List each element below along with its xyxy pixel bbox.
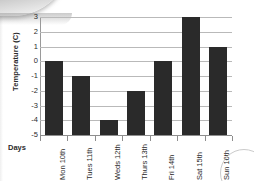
y-tick-label: -3 [22,102,38,110]
y-tick-label: 1 [22,43,38,51]
x-axis-tick-labels: Mon 10thTues 11thWeds 12thThurs 13thFri … [40,138,232,181]
y-tick-label: 2 [22,28,38,36]
y-tick-label: -4 [22,116,38,124]
x-tick-label: Tues 11th [85,136,94,180]
y-axis-tick-labels: 3210-1-2-3-4-5 [22,11,38,137]
y-tick-label: -1 [22,72,38,80]
bar [72,76,90,135]
y-tick-label: -2 [22,87,38,95]
x-tick-label: Mon 10th [58,136,67,180]
plot-area [40,17,232,135]
y-tick-label: 0 [22,57,38,65]
x-axis-title: Days [8,143,26,152]
bar [45,61,63,135]
bar [154,61,172,135]
bar [100,120,118,135]
x-tick-label: Sat 15th [195,136,204,180]
x-tick-label: Thurs 13th [140,136,149,180]
x-tick-label: Weds 12th [113,136,122,180]
bars-series [40,17,232,135]
y-tick-label: 3 [22,13,38,21]
y-axis-title: Temperature (C) [11,20,20,104]
bar [209,47,227,136]
temperature-bar-chart: Temperature (C) 3210-1-2-3-4-5 Mon 10thT… [0,0,254,181]
bar [127,91,145,135]
y-tick-label: -5 [22,131,38,139]
x-tick [232,136,233,141]
x-tick-label: Fri 14th [167,136,176,180]
bar [182,17,200,135]
